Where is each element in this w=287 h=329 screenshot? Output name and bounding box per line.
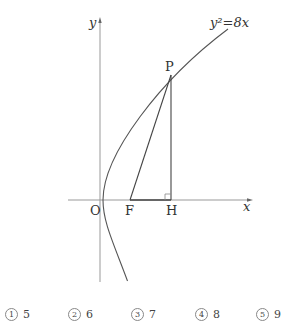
point-label-O: O [90, 203, 101, 218]
segment-PF [130, 75, 171, 200]
x-axis-label: x [243, 199, 251, 214]
choice-1[interactable]: 15 [5, 308, 30, 321]
point-label-F: F [125, 203, 134, 218]
point-label-H: H [166, 203, 177, 218]
choice-2[interactable]: 26 [68, 308, 93, 321]
point-label-P: P [165, 59, 174, 74]
curve-label: y²=8x [209, 15, 250, 30]
right-angle-mark [165, 194, 171, 200]
circled-number-icon: 1 [5, 308, 18, 321]
circled-number-icon: 4 [195, 308, 208, 321]
choice-value: 7 [149, 308, 156, 321]
y-axis-label: y [88, 15, 97, 30]
parabola-curve [103, 173, 129, 282]
choice-value: 8 [213, 308, 220, 321]
choice-value: 6 [86, 308, 93, 321]
circled-number-icon: 5 [256, 308, 269, 321]
choice-3[interactable]: 37 [131, 308, 156, 321]
choice-4[interactable]: 48 [195, 308, 220, 321]
choice-5[interactable]: 59 [256, 308, 281, 321]
choice-value: 9 [274, 308, 281, 321]
parabola-figure: y x y²=8x P O F H [0, 0, 287, 300]
y-axis-arrow-icon [98, 17, 101, 23]
circled-number-icon: 2 [68, 308, 81, 321]
circled-number-icon: 3 [131, 308, 144, 321]
choice-value: 5 [23, 308, 30, 321]
answer-choices: 15 26 37 48 59 [0, 308, 287, 326]
